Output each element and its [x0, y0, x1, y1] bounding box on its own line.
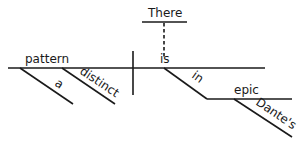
- subject-word: pattern: [25, 52, 69, 66]
- modifier-line-a: [20, 68, 73, 104]
- subject-modifier-a: a: [52, 76, 66, 92]
- sentence-diagram: pattern a distinct There is in epic Dant…: [0, 0, 298, 147]
- object-word: epic: [234, 83, 259, 97]
- verb-word: is: [160, 52, 170, 66]
- preposition-word: in: [189, 68, 206, 86]
- expletive-word: There: [147, 6, 182, 20]
